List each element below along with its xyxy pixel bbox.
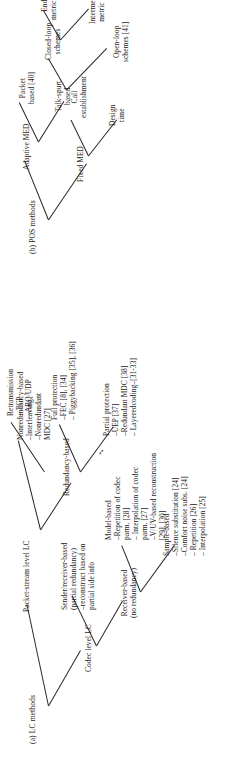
node-design-time-line1: Design	[108, 104, 117, 126]
node-sample-based-line3: –Comfort noise subs. [24]	[180, 476, 189, 556]
link-codec-to-receiver-based	[96, 601, 123, 646]
node-model-based-line5: parm. [27]	[140, 453, 149, 540]
node-model-based-line6: –V/UV-based reconstruction	[149, 453, 158, 540]
node-end-to-end-metric: End-to-end metric [13], [15]	[40, 0, 58, 20]
node-retransmission-line1: Retransmission	[6, 369, 15, 416]
node-packet-based: Packet based [40]	[18, 72, 36, 104]
link-a-root-to-codec	[48, 650, 81, 706]
node-model-based-line4: – Interpolation of codec	[131, 453, 140, 540]
link-closed-loop-to-intermediate-metric	[60, 8, 89, 40]
node-full-protection-line1: Full protection	[50, 341, 59, 420]
node-retransmission-line2: – TCP	[15, 369, 24, 416]
node-retransmission-line3: –ARQ/UDP	[24, 369, 33, 416]
node-sender-receiver-based-line3: –reconstruct based on	[78, 542, 87, 610]
node-packet-based-line2: based [40]	[27, 72, 36, 104]
panel-b-caption: (b) POS methods	[28, 200, 37, 254]
node-open-loop-schemes-line1: Open-loop	[112, 22, 121, 62]
node-sender-receiver-based-line4: partial side info	[87, 542, 96, 610]
node-packet-stream-level-lc: Packet-stream level LC	[22, 540, 31, 612]
node-model-based-line1: Model-based	[104, 453, 113, 540]
node-packet-based-line1: Packet	[18, 72, 27, 104]
link-a-root-to-packetstream	[26, 604, 48, 706]
node-sender-receiver-based-line1: Sender/receiver-based	[60, 542, 69, 610]
node-design-time-line2: time	[117, 104, 126, 126]
node-fixed-med: Fixed MED	[76, 146, 85, 182]
node-partial-protection: Partial protection –UEP [37] –Redundant …	[102, 358, 138, 436]
node-end-to-end-metric-line2: metric [13], [15]	[49, 0, 58, 20]
node-partial-protection-line3: –Redundant MDC [38]	[120, 358, 129, 436]
node-model-based-line2: –Repetition of codec	[113, 453, 122, 540]
node-talkspurt-based-line1: Talk-spurt	[54, 81, 63, 112]
node-full-protection-line2: –FEC [8], [34]	[59, 341, 68, 420]
link-packetstream-to-nonredundancy	[18, 441, 41, 530]
node-design-time: Design time	[108, 104, 126, 126]
node-sample-based-line5: – Interpolation [25]	[198, 476, 207, 556]
figure-canvas: (a) LC methods Codec level LC Packet-str…	[0, 0, 231, 768]
node-intermediate-metric-line2: metric [39]	[97, 0, 106, 24]
node-sample-based: Sample-based –Silence substitution [24] …	[162, 476, 207, 556]
node-model-based: Model-based –Repetition of codec parm. […	[104, 453, 167, 540]
node-nonredundancy-based-line3: –Nonredundant	[34, 372, 43, 440]
node-model-based-line3: parm. [28]	[122, 453, 131, 540]
node-sender-receiver-based-line2: (partial redundancy)	[69, 542, 78, 610]
node-end-to-end-metric-line1: End-to-end	[40, 0, 49, 20]
node-intermediate-metric-line1: Intermediate	[88, 0, 97, 24]
node-sample-based-line4: – Repetition [26]	[189, 476, 198, 556]
node-call-establishment-line2: establishment	[79, 76, 88, 118]
node-retransmission: Retransmission – TCP –ARQ/UDP	[6, 369, 33, 416]
node-sender-receiver-based: Sender/receiver-based (partial redundanc…	[60, 542, 96, 610]
node-adaptive-med: Adaptive MED	[22, 123, 31, 170]
node-full-protection-line3: – Piggybacking [35], [36]	[68, 341, 77, 420]
node-partial-protection-line1: Partial protection	[102, 358, 111, 436]
node-intermediate-metric: Intermediate metric [39]	[88, 0, 106, 24]
node-receiver-based-line1: Receiver-based	[120, 568, 129, 618]
node-closed-loop-schemes-line1: Closed-loop	[44, 23, 53, 60]
node-full-protection: Full protection –FEC [8], [34] – Piggyba…	[50, 341, 77, 420]
panel-a-caption: (a) LC methods	[28, 695, 37, 744]
node-partial-protection-line4: – Layeredcoding–[31-33]	[129, 358, 138, 436]
taxonomy-figure: (a) LC methods Codec level LC Packet-str…	[0, 0, 231, 768]
node-open-loop-schemes: Open-loop schemes [41]	[112, 22, 130, 62]
node-model-based-line7: [29], [30]	[158, 453, 167, 540]
node-sample-based-line2: –Silence substitution [24]	[171, 476, 180, 556]
node-open-loop-schemes-line2: schemes [41]	[121, 22, 130, 62]
node-partial-protection-line2: –UEP [37]	[111, 358, 120, 436]
node-receiver-based: Receiver-based (no redundancy)	[120, 568, 138, 618]
